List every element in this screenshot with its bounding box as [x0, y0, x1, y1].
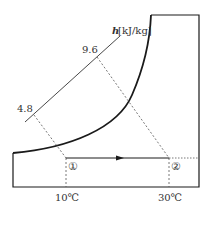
enthalpy-unit: [kJ/kg]	[118, 26, 152, 36]
temperature-tick-10: 10℃	[55, 193, 79, 203]
enthalpy-scale-line	[25, 36, 120, 122]
enthalpy-tick-4-8: 4.8	[17, 104, 33, 114]
state-2-marker: ②	[171, 161, 181, 172]
enthalpy-tick-9-6: 9.6	[82, 45, 98, 55]
enthalpy-line-9-6	[97, 57, 169, 158]
process-arrow-icon	[116, 156, 124, 161]
state-1-marker: ①	[68, 161, 78, 172]
temperature-tick-30: 30℃	[158, 193, 182, 203]
enthalpy-line-4-8	[34, 115, 66, 158]
